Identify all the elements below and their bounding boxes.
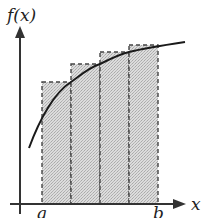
rectangle-3 <box>100 52 129 204</box>
y-axis-label: f(x) <box>5 5 36 25</box>
x-axis-arrow-icon <box>173 199 186 209</box>
riemann-rectangles <box>42 45 158 204</box>
interval-start-label: a <box>37 203 47 218</box>
rectangle-4 <box>129 45 158 204</box>
interval-end-label: b <box>153 203 164 218</box>
y-axis-arrow-icon <box>15 26 25 38</box>
riemann-sum-diagram: f(x) x a b <box>0 0 222 218</box>
x-axis-label: x <box>191 194 201 214</box>
rectangle-1 <box>42 82 71 204</box>
y-axis <box>15 26 25 214</box>
rectangle-2 <box>71 64 100 204</box>
